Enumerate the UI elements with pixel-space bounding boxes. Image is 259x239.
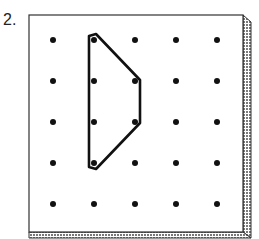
peg	[132, 201, 138, 207]
peg	[91, 78, 97, 84]
peg	[173, 78, 179, 84]
peg	[50, 201, 56, 207]
peg	[91, 201, 97, 207]
peg	[91, 160, 97, 166]
board-side-shadow	[243, 15, 251, 238]
peg	[214, 119, 220, 125]
peg	[173, 119, 179, 125]
geoboard	[0, 0, 259, 239]
peg	[50, 37, 56, 43]
board-bottom-shadow	[29, 232, 251, 238]
peg	[50, 78, 56, 84]
peg	[91, 119, 97, 125]
peg	[50, 160, 56, 166]
peg	[132, 37, 138, 43]
peg	[173, 37, 179, 43]
peg	[173, 160, 179, 166]
peg	[214, 37, 220, 43]
peg	[132, 78, 138, 84]
peg	[214, 201, 220, 207]
peg	[173, 201, 179, 207]
peg	[214, 160, 220, 166]
peg	[50, 119, 56, 125]
peg	[132, 160, 138, 166]
peg	[214, 78, 220, 84]
peg	[91, 37, 97, 43]
peg	[132, 119, 138, 125]
